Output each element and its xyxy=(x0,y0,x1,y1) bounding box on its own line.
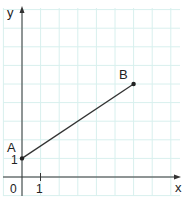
x-axis-label: x xyxy=(175,180,182,195)
grid-lines xyxy=(3,8,180,196)
point-a-label: A xyxy=(7,140,16,155)
x-axis-arrow-icon xyxy=(174,175,181,180)
y-axis-label: y xyxy=(7,5,14,20)
point-b-label: B xyxy=(119,67,128,82)
origin-label: 0 xyxy=(10,182,17,196)
x-tick-label-1: 1 xyxy=(36,182,43,196)
point-a xyxy=(20,156,24,160)
y-tick-label-1: 1 xyxy=(11,153,18,167)
coordinate-plot: y x 0 1 1 A B xyxy=(0,0,184,212)
point-b xyxy=(131,82,135,86)
